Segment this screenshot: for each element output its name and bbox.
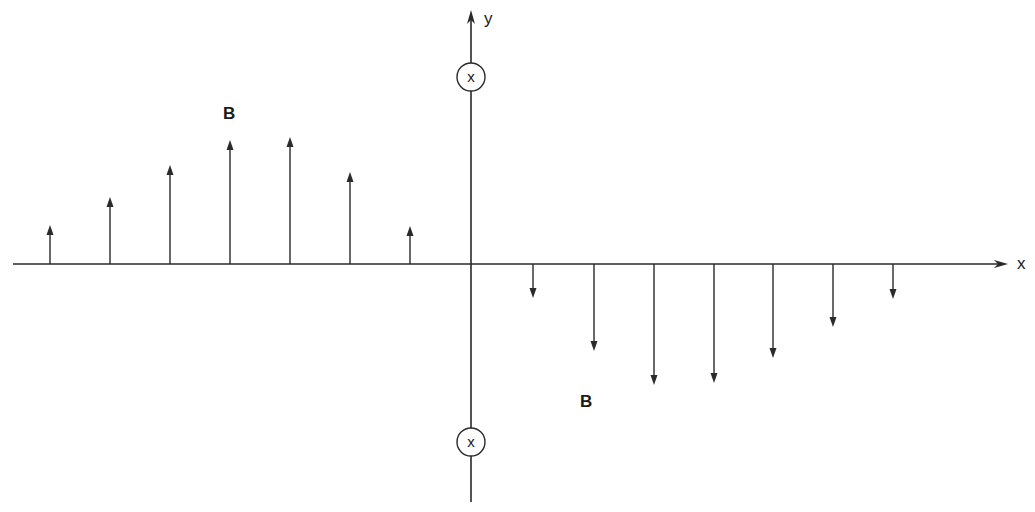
- field-vector-down: [651, 264, 658, 385]
- arrowhead-down-icon: [711, 373, 718, 383]
- field-vector-down: [890, 264, 897, 299]
- wire-upper: x: [457, 63, 485, 91]
- field-vector-up: [407, 226, 414, 264]
- field-vector-down: [770, 264, 777, 358]
- field-vector-down: [591, 264, 598, 351]
- field-vector-up: [227, 140, 234, 264]
- arrowhead-down-icon: [591, 341, 598, 351]
- field-vector-up: [107, 197, 114, 264]
- field-vector-up: [47, 225, 54, 264]
- field-vector-up: [347, 172, 354, 264]
- x-axis-label: x: [1017, 254, 1026, 273]
- wire-symbol: x: [467, 68, 475, 85]
- field-vector-down: [711, 264, 718, 383]
- y-axis-label: y: [484, 9, 493, 28]
- arrowhead-down-icon: [530, 288, 537, 298]
- field-vector-up: [167, 165, 174, 264]
- field-vector-down: [530, 264, 537, 298]
- arrowhead-up-icon: [407, 226, 414, 236]
- field-vector-down: [830, 264, 837, 327]
- wire-lower: x: [457, 428, 485, 456]
- arrowhead-up-icon: [287, 137, 294, 147]
- arrowhead-down-icon: [651, 375, 658, 385]
- labels: x y B B: [223, 9, 1026, 411]
- field-label-lower: B: [580, 392, 592, 411]
- axes: [13, 10, 1008, 502]
- field-vector-up: [287, 137, 294, 264]
- field-label-upper: B: [223, 104, 235, 123]
- arrowhead-up-icon: [107, 197, 114, 207]
- arrowhead-up-icon: [227, 140, 234, 150]
- wire-symbol: x: [467, 433, 475, 450]
- arrowhead-down-icon: [770, 348, 777, 358]
- arrowhead-up-icon: [167, 165, 174, 175]
- arrowhead-down-icon: [830, 317, 837, 327]
- arrowhead-down-icon: [890, 289, 897, 299]
- arrowhead-up-icon: [347, 172, 354, 182]
- field-diagram: xx x y B B: [0, 0, 1035, 512]
- arrowhead-up-icon: [47, 225, 54, 235]
